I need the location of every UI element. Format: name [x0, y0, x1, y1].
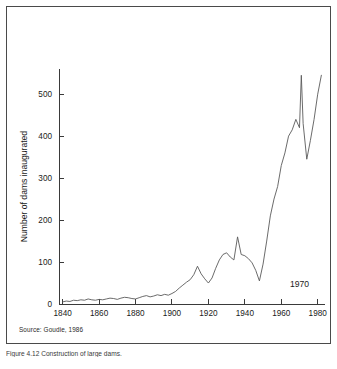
figure-container: 0100200300400500184018601880190019201940…: [0, 0, 337, 369]
x-tick-label-1940: 1940: [236, 309, 255, 318]
figure-frame: 0100200300400500184018601880190019201940…: [6, 6, 331, 344]
y-axis-title: Number of dams inaugurated: [19, 131, 29, 243]
source-note: Source: Goudie, 1986: [19, 326, 83, 333]
x-tick-label-1880: 1880: [126, 309, 145, 318]
annotation-1970: 1970: [290, 279, 309, 289]
y-tick-label-100: 100: [38, 258, 52, 267]
figure-caption: Figure 4.12 Construction of large dams.: [6, 350, 331, 357]
x-tick-label-1980: 1980: [309, 309, 328, 318]
x-tick-label-1960: 1960: [272, 309, 291, 318]
y-tick-label-0: 0: [47, 300, 52, 309]
x-tick-label-1860: 1860: [90, 309, 109, 318]
plot-area: 0100200300400500184018601880190019201940…: [7, 7, 332, 345]
x-tick-label-1900: 1900: [163, 309, 182, 318]
x-tick-label-1920: 1920: [199, 309, 218, 318]
y-tick-label-500: 500: [38, 90, 52, 99]
dams-inaugurated-line-chart: 0100200300400500184018601880190019201940…: [7, 7, 332, 345]
x-tick-label-1840: 1840: [54, 309, 73, 318]
data-series-0: [63, 75, 322, 302]
y-tick-label-200: 200: [38, 216, 52, 225]
y-tick-label-400: 400: [38, 132, 52, 141]
y-tick-label-300: 300: [38, 174, 52, 183]
